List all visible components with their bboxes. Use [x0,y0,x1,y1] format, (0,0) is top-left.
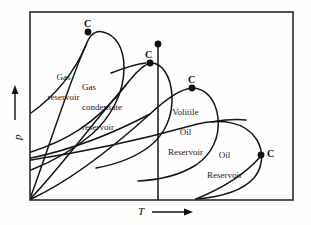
y-axis-arrow-icon [12,85,19,120]
region-label-oil-line2: Reservoir [207,170,242,180]
critical-point-label-gas: C [84,19,91,29]
critical-point-label-gas-condensate: C [145,50,152,60]
critical-point-label-oil: C [267,149,274,159]
region-label-volatile-oil-line2: Oil [180,127,192,137]
region-label-oil-line1: Oil [219,150,231,160]
region-label-gas-condensate-line1: Gas [82,82,96,92]
volatile-oil-leader-line [212,120,246,122]
region-label-gas-line1: Gas [57,72,71,82]
region-label-volatile-oil-line1: Volitile [172,107,198,117]
y-axis-label: p [12,135,23,141]
critical-point-dot-oil [258,152,265,159]
critical-point-dot-volatile-oil [189,85,196,92]
region-label-gas-condensate: Gas condensate reservoir [73,72,135,142]
region-label-gas-condensate-line3: reservoir [82,122,114,132]
region-label-oil: Oil Reservoir [194,140,246,190]
critical-point-dot-gas-condensate [147,60,154,67]
critical-point-dot-gas [85,29,92,36]
phase-diagram-figure: Gas reservoir Gas condensate reservoir V… [0,0,311,225]
reservoir-temperature-top-dot [155,41,162,48]
x-axis-label: T [138,206,144,217]
region-label-gas-condensate-line2: condensate [82,102,122,112]
x-axis-arrow-icon [152,209,193,216]
critical-point-label-volatile-oil: C [188,75,195,85]
